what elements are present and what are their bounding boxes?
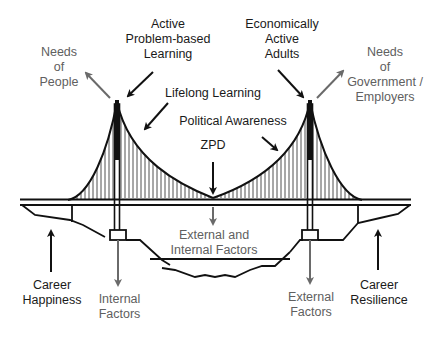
career-happiness-label: Career Happiness xyxy=(17,278,87,308)
lifelong-learning-arrow xyxy=(145,103,168,129)
label-line: Employers xyxy=(338,90,432,105)
active-learning-label: Active Problem-based Learning xyxy=(118,17,218,62)
external-factors-label: External Factors xyxy=(281,290,341,320)
economically-active-arrow xyxy=(278,70,303,97)
label-line: Problem-based xyxy=(118,32,218,47)
label-line: Learning xyxy=(118,47,218,62)
label-line: Needs xyxy=(34,45,84,60)
economically-active-label: Economically Active Adults xyxy=(232,17,332,62)
needs-of-people-label: Needs of People xyxy=(34,45,84,90)
label-line: Government / xyxy=(338,75,432,90)
label-line: Economically xyxy=(232,17,332,32)
left-tower xyxy=(115,100,120,231)
label-line: External xyxy=(281,290,341,305)
label-line: Factors xyxy=(281,305,341,320)
label-line: Career xyxy=(345,278,413,293)
label-line: Internal xyxy=(92,292,147,307)
label-line: of xyxy=(34,60,84,75)
label-line: Active xyxy=(118,17,218,32)
label-line: Active xyxy=(232,32,332,47)
career-resilience-label: Career Resilience xyxy=(345,278,413,308)
right-tower xyxy=(308,100,313,231)
label-line: Needs xyxy=(338,45,432,60)
political-awareness-arrow xyxy=(262,137,277,150)
lifelong-learning-label: Lifelong Learning xyxy=(148,86,278,101)
internal-factors-label: Internal Factors xyxy=(92,292,147,322)
label-line: Career xyxy=(17,278,87,293)
label-line: Factors xyxy=(92,307,147,322)
needs-of-government-label: Needs of Government / Employers xyxy=(338,45,432,105)
label-line: Adults xyxy=(232,47,332,62)
label-line: Internal Factors xyxy=(160,243,268,258)
zpd-label: ZPD xyxy=(193,138,233,153)
needs-of-people-arrow xyxy=(86,73,110,98)
political-awareness-label: Political Awareness xyxy=(168,114,298,129)
career-bridge-diagram: Needs of People Active Problem-based Lea… xyxy=(0,0,442,337)
bridge-deck xyxy=(20,200,411,206)
label-line: Resilience xyxy=(345,293,413,308)
label-line: of xyxy=(338,60,432,75)
label-line: People xyxy=(34,75,84,90)
label-line: External and xyxy=(160,228,268,243)
external-internal-label: External and Internal Factors xyxy=(160,228,268,258)
label-line: Happiness xyxy=(17,293,87,308)
